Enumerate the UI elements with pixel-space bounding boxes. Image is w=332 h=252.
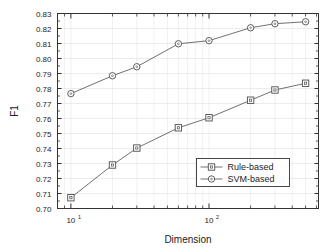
y-tick-label: 0.70 — [36, 205, 52, 214]
x-tick-label-base: 10 — [66, 216, 75, 225]
marker-square — [302, 80, 308, 86]
y-tick-label: 0.79 — [36, 70, 52, 79]
x-axis-title: Dimension — [164, 234, 211, 245]
marker-circle — [134, 64, 140, 70]
x-tick-label-base: 10 — [205, 216, 214, 225]
x-tick-label-exponent: 1 — [78, 214, 81, 220]
x-tick-label: 102 — [205, 214, 220, 225]
marker-square — [175, 125, 181, 131]
y-axis-title: F1 — [9, 105, 20, 117]
marker-square — [247, 97, 253, 103]
y-tick-label: 0.82 — [36, 25, 52, 34]
marker-circle — [206, 37, 212, 43]
legend-label: SVM-based — [228, 174, 275, 184]
y-axis-title-text: F1 — [9, 105, 20, 117]
y-tick-label: 0.81 — [36, 40, 52, 49]
marker-square — [208, 164, 214, 170]
y-tick-label: 0.83 — [36, 10, 52, 19]
marker-square — [68, 195, 74, 201]
legend-label: Rule-based — [228, 162, 274, 172]
marker-square — [272, 87, 278, 93]
marker-circle — [272, 21, 278, 27]
marker-circle — [175, 41, 181, 47]
legend[interactable]: Rule-basedSVM-based — [197, 159, 290, 187]
marker-circle — [247, 25, 253, 31]
y-tick-label: 0.73 — [36, 160, 52, 169]
line-chart: 0.700.710.720.730.740.750.760.770.780.79… — [0, 0, 332, 252]
marker-circle — [68, 90, 74, 96]
y-tick-labels: 0.700.710.720.730.740.750.760.770.780.79… — [36, 10, 52, 214]
y-tick-label: 0.72 — [36, 175, 52, 184]
chart-figure: 0.700.710.720.730.740.750.760.770.780.79… — [0, 0, 332, 252]
y-tick-label: 0.74 — [36, 145, 52, 154]
y-tick-label: 0.80 — [36, 55, 52, 64]
x-tick-label: 101 — [66, 214, 81, 225]
marker-square — [206, 115, 212, 121]
marker-circle — [109, 73, 115, 79]
y-tick-label: 0.76 — [36, 115, 52, 124]
y-tick-label: 0.71 — [36, 190, 52, 199]
x-tick-labels: 101102 — [66, 214, 219, 225]
y-tick-label: 0.78 — [36, 85, 52, 94]
marker-square — [134, 145, 140, 151]
marker-circle — [302, 19, 308, 25]
marker-square — [109, 162, 115, 168]
y-tick-label: 0.77 — [36, 100, 52, 109]
marker-circle — [208, 176, 214, 182]
x-tick-label-exponent: 2 — [216, 214, 219, 220]
y-tick-label: 0.75 — [36, 130, 52, 139]
